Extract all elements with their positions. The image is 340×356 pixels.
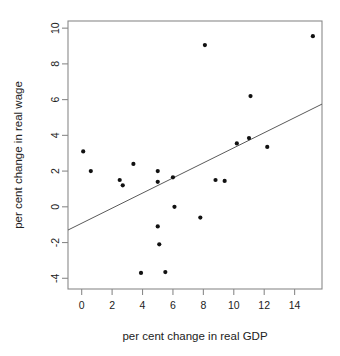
y-tick-label: -2 <box>49 238 61 247</box>
x-axis-ticks <box>82 289 295 295</box>
data-point <box>248 94 252 98</box>
x-tick-label: 0 <box>79 299 85 311</box>
data-point <box>131 162 135 166</box>
y-tick-label: 6 <box>49 97 61 103</box>
data-point <box>172 205 176 209</box>
data-point <box>121 183 125 187</box>
data-point <box>156 224 160 228</box>
data-point <box>171 175 175 179</box>
y-tick-label: 10 <box>49 22 61 34</box>
data-point <box>235 141 239 145</box>
data-point <box>311 34 315 38</box>
data-point <box>139 271 143 275</box>
data-point <box>89 169 93 173</box>
data-point <box>203 43 207 47</box>
plot-canvas: 02468101214 -4-20246810 per cent change … <box>0 0 340 356</box>
y-tick-label: -4 <box>49 273 61 282</box>
trend-line-group <box>68 104 322 230</box>
x-tick-label: 4 <box>140 299 146 311</box>
data-point <box>265 145 269 149</box>
data-point <box>213 178 217 182</box>
y-tick-label: 0 <box>49 204 61 210</box>
x-axis-tick-labels: 02468101214 <box>79 299 301 311</box>
x-tick-label: 6 <box>170 299 176 311</box>
data-point <box>223 179 227 183</box>
y-tick-label: 4 <box>49 132 61 138</box>
y-axis-title: per cent change in real wage <box>12 81 24 229</box>
data-point <box>163 270 167 274</box>
plot-border <box>68 21 322 289</box>
scatter-plot-figure: 02468101214 -4-20246810 per cent change … <box>0 0 340 356</box>
data-point <box>156 180 160 184</box>
x-axis-title: per cent change in real GDP <box>122 330 267 342</box>
y-tick-label: 8 <box>49 61 61 67</box>
plot-frame <box>68 21 322 289</box>
data-point <box>81 149 85 153</box>
x-tick-label: 8 <box>200 299 206 311</box>
data-point <box>156 169 160 173</box>
y-axis-tick-labels: -4-20246810 <box>49 22 61 283</box>
data-point <box>118 178 122 182</box>
x-tick-label: 12 <box>258 299 270 311</box>
regression-line <box>68 104 322 230</box>
data-point <box>247 136 251 140</box>
y-tick-label: 2 <box>49 168 61 174</box>
data-points-group <box>81 34 315 275</box>
data-point <box>157 242 161 246</box>
x-tick-label: 10 <box>228 299 240 311</box>
x-tick-label: 2 <box>109 299 115 311</box>
data-point <box>198 215 202 219</box>
x-tick-label: 14 <box>289 299 301 311</box>
y-axis-ticks <box>62 28 68 278</box>
